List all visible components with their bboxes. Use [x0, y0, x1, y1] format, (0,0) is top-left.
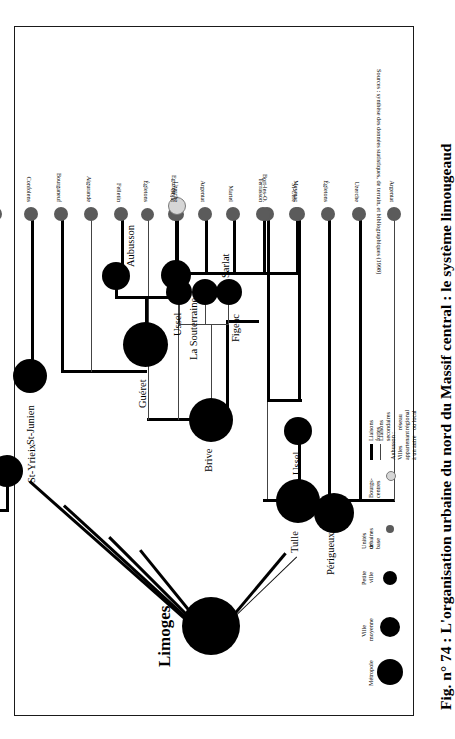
label-leaf-argentat-sarlat: Argentat — [200, 180, 207, 202]
label-leaf-bourganeuf: Bourganeuf — [56, 173, 63, 202]
edge-figeac-sarlat — [205, 303, 206, 325]
node-limoges[interactable] — [182, 597, 240, 655]
node-gueret[interactable] — [123, 322, 168, 367]
label-figeac: Figeac — [230, 314, 241, 342]
node-stjunien[interactable] — [13, 359, 47, 393]
edge-ussel-bort — [267, 214, 270, 401]
node-ussel-tulle[interactable] — [284, 417, 312, 445]
figure-caption: Fig. n° 74 : L'organisation urbaine du n… — [437, 144, 455, 710]
edge-figeac-bus — [179, 324, 229, 325]
label-leaf-terrasson: Terrasson — [258, 178, 265, 202]
node-leaf-stcere[interactable] — [289, 207, 303, 221]
legend-label-note-line1: Aubusson : Villes appartenant à un autre — [389, 431, 417, 460]
label-brive: Brive — [203, 449, 214, 472]
legend-label-metropole: Métropole — [367, 660, 374, 686]
edge-sarlat-stcere — [296, 214, 299, 274]
label-lasouterraine: La Souterraine — [188, 298, 199, 360]
edge-gueret-aigurande — [91, 214, 92, 372]
figure-page: Limoges Périgueux Tulle Brive Guéret St-… — [0, 0, 455, 739]
label-leaf-egletons-tulle: Égletons — [323, 180, 330, 202]
label-leaf-felletin: Felletin — [116, 183, 123, 202]
edge-sarlat-argentat — [205, 214, 208, 274]
node-tulle[interactable] — [276, 479, 320, 523]
node-leaf-aigurande[interactable] — [84, 207, 98, 221]
label-leaf-argentat-tulle: Argentat — [389, 180, 396, 202]
legend-node-bourgs-centres — [386, 471, 396, 481]
node-leaf-confolens[interactable] — [24, 207, 38, 221]
legend-node-unites-urbaines — [386, 525, 394, 533]
node-leaf-martel[interactable] — [226, 207, 240, 221]
label-sarlat: Sarlat — [220, 254, 231, 279]
label-ussel-tulle: Ussel — [291, 452, 302, 475]
node-perigueux[interactable] — [314, 493, 354, 533]
edge-gueret-bourganeuf — [61, 214, 64, 372]
legend-node-petite-ville — [383, 571, 397, 585]
node-leaf-argentat-tulle[interactable] — [387, 207, 401, 221]
label-ussel-brive: Ussel — [172, 313, 183, 336]
edge-sarlat-terrasson — [263, 214, 266, 274]
edge-stjunien-confolens — [31, 214, 34, 375]
label-leaf-eguzon: Eguzon — [171, 175, 178, 194]
label-stjunien: St-Junien — [25, 405, 36, 445]
node-figeac[interactable] — [216, 279, 242, 305]
edge-figeac-figeac — [228, 303, 229, 325]
legend-label-ville-moyenne-2: moyenne — [367, 618, 374, 641]
label-limoges: Limoges — [155, 606, 175, 667]
node-leaf-felletin[interactable] — [114, 207, 128, 221]
edge-sarlat-martel — [233, 214, 236, 274]
label-aubusson: Aubusson — [125, 225, 136, 267]
figure-frame: Limoges Périgueux Tulle Brive Guéret St-… — [14, 26, 414, 716]
node-leaf-uzerche-tulle[interactable] — [352, 207, 366, 221]
node-leaf-terrasson[interactable] — [256, 207, 270, 221]
sources-note: Sources : synthèse des données statistiq… — [376, 69, 383, 274]
label-perigueux: Périgueux — [325, 532, 336, 575]
label-tulle: Tulle — [289, 531, 300, 553]
label-leaf-uzerche-tulle: Uzerche — [354, 181, 361, 202]
legend-label-bourgs-centres: Bourgs-centres — [367, 478, 381, 498]
legend-label-petite-ville-2: ville — [367, 572, 374, 583]
diagram-canvas: Limoges Périgueux Tulle Brive Guéret St-… — [15, 27, 413, 715]
label-leaf-stcere: St-Céré — [291, 183, 298, 202]
label-leaf-egletons-brive: Égletons — [143, 180, 150, 202]
edge-gueret-upper-bus — [61, 370, 147, 373]
node-leaf-bourganeuf[interactable] — [54, 207, 68, 221]
legend-label-unites-2: de base — [367, 538, 381, 549]
node-styrieix[interactable] — [0, 455, 23, 487]
node-leaf-egletons-brive[interactable] — [141, 208, 154, 221]
edge-limoges-dorat — [29, 480, 203, 635]
edge-bellac-bottom — [6, 485, 9, 511]
node-leaf-nontron[interactable] — [0, 207, 2, 221]
node-lasouterraine[interactable] — [161, 260, 191, 290]
edge-tulle-egletons — [328, 214, 331, 501]
label-leaf-aigurande: Aigurande — [86, 176, 93, 202]
node-leaf-egletons-tulle[interactable] — [321, 207, 335, 221]
legend-label-note-line2: réseau régional ou local — [396, 410, 417, 430]
legend-node-ville-moyenne — [380, 617, 400, 637]
edge-ussel-tulle-bus — [267, 399, 302, 402]
node-brive[interactable] — [189, 398, 233, 442]
legend-node-metropole — [377, 659, 403, 685]
edge-tulle-uzerche — [359, 214, 362, 501]
label-leaf-martel: Martel — [228, 186, 235, 203]
label-gueret: Guéret — [137, 379, 148, 408]
legend-label-petite-ville-1: Petite — [360, 571, 367, 585]
legend-swatch-strong-link — [370, 444, 373, 460]
label-leaf-confolens: Confolens — [26, 177, 33, 202]
node-leaf-argentat-sarlat[interactable] — [198, 207, 212, 221]
label-styrieix: St-Yrieix — [26, 444, 37, 483]
legend-swatch-secondary-link — [380, 444, 381, 460]
legend-label-ville-moyenne-1: Ville — [360, 625, 367, 637]
